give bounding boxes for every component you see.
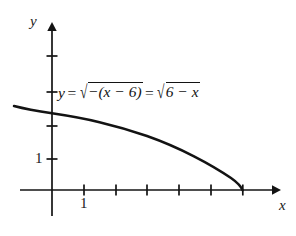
curve-sqrt-6-minus-x (14, 106, 243, 190)
y-axis-arrow-icon (47, 22, 56, 31)
graph-canvas (0, 0, 296, 236)
y-tick-label-1: 1 (35, 151, 43, 166)
x-tick-label-1: 1 (80, 196, 88, 211)
radicand-2: 6 − x (166, 82, 200, 100)
x-axis-label: x (279, 198, 286, 213)
x-axis-arrow-icon (272, 185, 281, 195)
radical-2: √6 − x (156, 83, 199, 101)
equation-annotation: y=√−(x − 6)=√6 − x (58, 83, 200, 101)
radical-sign-icon-2: √ (157, 82, 164, 101)
radicand-1: −(x − 6) (88, 82, 143, 100)
function-graph-figure: y x 1 1 y=√−(x − 6)=√6 − x (0, 0, 296, 236)
equation-equals-1: = (65, 84, 79, 101)
equation-equals-2: = (143, 84, 157, 101)
radical-sign-icon: √ (80, 82, 87, 101)
equation-lhs: y (58, 84, 65, 101)
y-axis-label: y (30, 14, 37, 29)
radical-1: √−(x − 6) (79, 83, 143, 101)
